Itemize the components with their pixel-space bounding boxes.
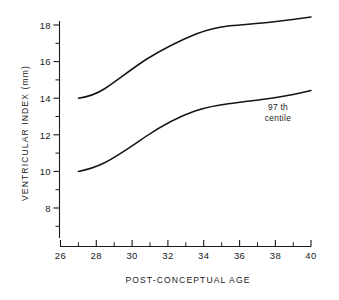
y-tick-label-10: 10 bbox=[40, 166, 51, 177]
x-axis: 26 28 30 32 34 36 38 40 bbox=[55, 240, 317, 261]
y-tick-label-16: 16 bbox=[40, 56, 51, 67]
x-tick-label-36: 36 bbox=[234, 250, 245, 261]
centile-label-line1: 97 th bbox=[268, 102, 288, 112]
centile-label-line2: centile bbox=[265, 113, 291, 123]
y-tick-label-14: 14 bbox=[40, 93, 51, 104]
y-tick-label-12: 12 bbox=[40, 130, 51, 141]
x-tick-label-30: 30 bbox=[126, 250, 137, 261]
chart-canvas: 18 16 14 12 10 8 bbox=[0, 0, 339, 300]
y-axis: 18 16 14 12 10 8 bbox=[40, 20, 60, 238]
x-axis-title: POST-CONCEPTUAL AGE bbox=[125, 275, 250, 285]
x-tick-label-26: 26 bbox=[55, 250, 66, 261]
y-tick-label-8: 8 bbox=[45, 203, 51, 214]
x-tick-label-34: 34 bbox=[198, 250, 209, 261]
x-tick-label-32: 32 bbox=[162, 250, 173, 261]
data-curves bbox=[78, 17, 311, 171]
chart-figure: 18 16 14 12 10 8 bbox=[0, 0, 339, 300]
y-tick-label-18: 18 bbox=[40, 20, 51, 31]
curve-upper-band bbox=[78, 17, 311, 98]
x-tick-label-28: 28 bbox=[91, 250, 102, 261]
y-axis-title: VENTRICULAR INDEX (mm) bbox=[20, 65, 30, 201]
x-tick-label-40: 40 bbox=[305, 250, 316, 261]
annotation-97th-centile: 97 th centile bbox=[265, 102, 291, 123]
x-tick-label-38: 38 bbox=[270, 250, 281, 261]
